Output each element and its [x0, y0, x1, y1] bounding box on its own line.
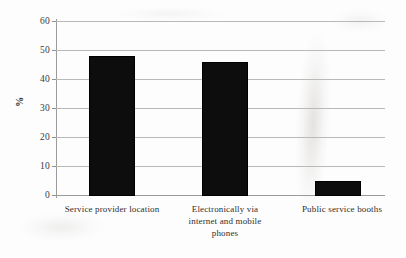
gridline	[56, 21, 385, 22]
x-tick-label-1: Electronically via internet and mobile p…	[166, 203, 284, 239]
x-tick-label-line: Electronically via	[166, 203, 284, 215]
y-tick-label: 10	[24, 161, 50, 171]
x-tick-label-line: Service provider location	[51, 203, 173, 215]
x-tick-label-line: internet and mobile	[166, 215, 284, 227]
y-axis-tick-labels: 60 50 40 30 20 10 0	[22, 21, 50, 196]
axis-tick	[52, 21, 56, 22]
scan-artifact-smudge	[16, 212, 106, 242]
bar-electronically-via-internet-and-mobile-phones	[202, 62, 248, 196]
axis-tick	[52, 108, 56, 109]
axis-tick	[52, 137, 56, 138]
y-tick-label: 30	[24, 103, 50, 113]
gridline	[56, 50, 385, 51]
y-tick-label: 60	[24, 16, 50, 26]
x-tick-label-0: Service provider location	[51, 203, 173, 215]
x-tick-label-line: Public service booths	[284, 203, 400, 215]
y-tick-label: 40	[24, 74, 50, 84]
y-tick-label: 0	[24, 190, 50, 200]
bar-chart-figure: % 60 50 40 30 20 10 0 Service provider l…	[0, 0, 406, 258]
axis-tick	[52, 79, 56, 80]
x-tick-label-line: phones	[166, 227, 284, 239]
x-tick-label-2: Public service booths	[284, 203, 400, 215]
bar-service-provider-location	[89, 56, 135, 196]
axis-tick	[52, 166, 56, 167]
bar-public-service-booths	[315, 181, 361, 196]
scan-artifact-smudge	[110, 6, 230, 22]
axis-tick	[52, 195, 56, 196]
y-tick-label: 50	[24, 45, 50, 55]
plot-area	[56, 21, 385, 196]
y-tick-label: 20	[24, 132, 50, 142]
axis-tick	[52, 50, 56, 51]
